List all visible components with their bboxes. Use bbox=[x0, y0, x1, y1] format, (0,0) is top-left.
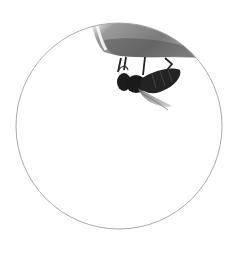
photo-content bbox=[88, 10, 236, 110]
bee bbox=[117, 57, 180, 110]
circular-photo bbox=[0, 0, 236, 254]
image-stage bbox=[0, 0, 236, 254]
